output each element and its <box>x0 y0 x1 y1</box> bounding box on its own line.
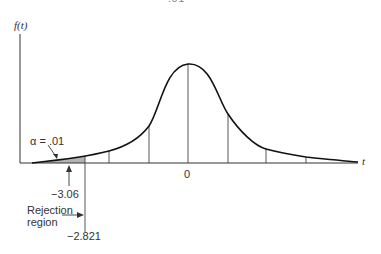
test-stat-arrowhead <box>66 165 72 172</box>
t-distribution-figure: .01 f(t) t 0 α = .01 −3.06 Rejection reg… <box>0 0 381 254</box>
zero-tick-label: 0 <box>184 169 190 180</box>
rejection-label-line1: Rejection <box>27 205 73 216</box>
alpha-arrowhead <box>53 154 58 159</box>
rejection-label-line2: region <box>27 217 58 228</box>
critical-value-label: −2.821 <box>67 231 101 242</box>
rejection-arrowhead <box>77 212 84 218</box>
x-axis-label: t <box>362 156 365 167</box>
y-axis-label: f(t) <box>14 20 27 31</box>
test-stat-label: −3.06 <box>51 189 79 200</box>
caption-fragment: .01 <box>168 0 185 4</box>
caption-left: .01 <box>168 0 185 4</box>
density-curve <box>32 64 358 163</box>
alpha-label: α = .01 <box>30 136 64 147</box>
